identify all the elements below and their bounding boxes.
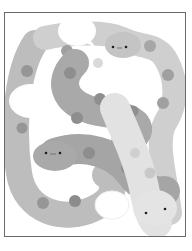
snakes-illustration <box>5 13 185 236</box>
speech-bubble-bottom <box>95 191 129 219</box>
illustration-frame <box>4 12 186 237</box>
